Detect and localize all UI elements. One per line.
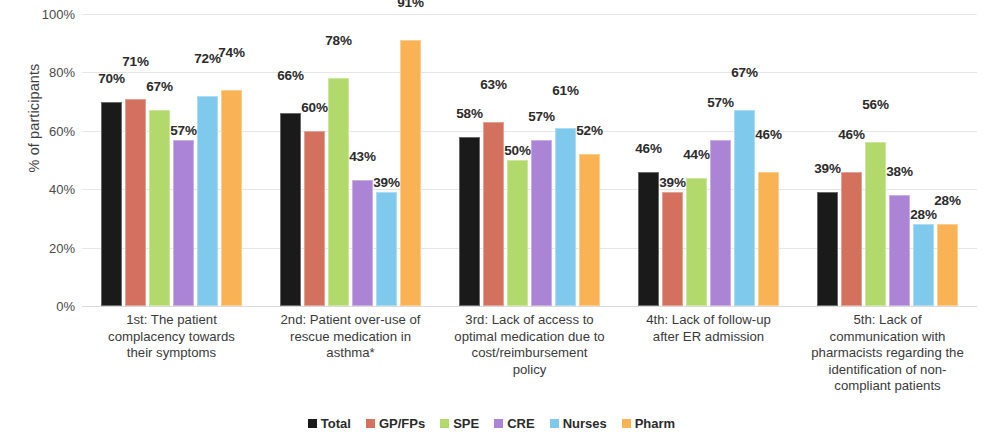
bar[interactable] [638,172,659,306]
bar[interactable] [197,96,218,306]
bar-column[interactable]: 67% [149,14,170,306]
bar-column[interactable]: 39% [662,14,683,306]
bar[interactable] [507,160,528,306]
x-axis-label-line: compliant patients [802,378,973,395]
bar-column[interactable]: 39% [817,14,838,306]
legend-item[interactable]: GP/FPs [366,416,425,431]
bar-value-label: 78% [325,33,351,48]
bar-column[interactable]: 38% [889,14,910,306]
bar-column[interactable]: 57% [531,14,552,306]
bar[interactable] [937,224,958,306]
legend-item[interactable]: SPE [440,416,479,431]
bar[interactable] [376,192,397,306]
bar-column[interactable]: 57% [710,14,731,306]
x-axis-label: 3rd: Lack of access tooptimal medication… [440,312,619,395]
x-axis-label-line: policy [444,362,615,379]
bar[interactable] [555,128,576,306]
x-axis-label-line: rescue medication in [265,329,436,346]
bar-value-label: 52% [576,123,602,138]
bar[interactable] [758,172,779,306]
bar[interactable] [662,192,683,306]
bar[interactable] [483,122,504,306]
x-axis-label-line: identification of non- [802,362,973,379]
bar-column[interactable]: 50% [507,14,528,306]
y-axis-tick: 20% [49,240,75,255]
bar-column[interactable]: 70% [101,14,122,306]
y-axis-tick: 60% [49,123,75,138]
x-axis-label-line: their symptoms [86,345,257,362]
legend-item[interactable]: CRE [494,416,534,431]
bar[interactable] [173,140,194,306]
bar[interactable] [817,192,838,306]
bar-column[interactable]: 56% [865,14,886,306]
bar[interactable] [459,137,480,306]
bar[interactable] [913,224,934,306]
y-axis-tick: 80% [49,65,75,80]
bar-value-label: 56% [862,97,888,112]
legend-label: Total [321,416,351,431]
legend-item[interactable]: Pharm [622,416,675,431]
y-axis-tick: 40% [49,182,75,197]
bar-value-label: 72% [194,51,220,66]
bar-column[interactable]: 57% [173,14,194,306]
bar-group: 39%46%56%38%28%28% [798,14,977,306]
bar-column[interactable]: 63% [483,14,504,306]
bar[interactable] [125,99,146,306]
x-axis-label-line: 3rd: Lack of access to [444,312,615,329]
legend-item[interactable]: Nurses [550,416,607,431]
bar-value-label: 66% [277,68,303,83]
bar[interactable] [400,40,421,306]
bar-column[interactable]: 44% [686,14,707,306]
bar-value-label: 38% [886,164,912,179]
bar[interactable] [531,140,552,306]
bar-column[interactable]: 46% [638,14,659,306]
legend-item[interactable]: Total [308,416,351,431]
legend-swatch-icon [366,419,375,428]
bar[interactable] [841,172,862,306]
bar-column[interactable]: 58% [459,14,480,306]
bar-column[interactable]: 43% [352,14,373,306]
bar[interactable] [101,102,122,306]
bar-column[interactable]: 52% [579,14,600,306]
bar[interactable] [889,195,910,306]
bar[interactable] [352,180,373,306]
bar-column[interactable]: 61% [555,14,576,306]
bar-column[interactable]: 39% [376,14,397,306]
bar-column[interactable]: 78% [328,14,349,306]
x-axis-label-line: complacency towards [86,329,257,346]
bar[interactable] [304,131,325,306]
bar-column[interactable]: 46% [758,14,779,306]
bar[interactable] [686,178,707,306]
bar-column[interactable]: 28% [937,14,958,306]
bar-column[interactable]: 74% [221,14,242,306]
bar[interactable] [865,142,886,306]
gridline [82,306,977,307]
legend-swatch-icon [622,419,631,428]
bar-column[interactable]: 71% [125,14,146,306]
bar-group-bars: 39%46%56%38%28%28% [798,14,977,306]
bar-column[interactable]: 60% [304,14,325,306]
bar[interactable] [221,90,242,306]
bar-column[interactable]: 28% [913,14,934,306]
bar-column[interactable]: 91% [400,14,421,306]
bar[interactable] [328,78,349,306]
bar[interactable] [149,110,170,306]
bar[interactable] [579,154,600,306]
bar[interactable] [280,113,301,306]
bar-value-label: 43% [349,149,375,164]
bar-value-label: 57% [707,95,733,110]
y-axis-tick: 100% [42,7,75,22]
bar-group: 70%71%67%57%72%74% [82,14,261,306]
bar-column[interactable]: 66% [280,14,301,306]
x-axis-label-line: communication with [802,329,973,346]
bar-value-label: 57% [528,109,554,124]
bar-column[interactable]: 46% [841,14,862,306]
bar-value-label: 71% [122,54,148,69]
bar-column[interactable]: 67% [734,14,755,306]
bar[interactable] [710,140,731,306]
legend-label: Pharm [635,416,675,431]
x-axis-label-line: 1st: The patient [86,312,257,329]
bar-column[interactable]: 72% [197,14,218,306]
x-axis-label: 2nd: Patient over-use ofrescue medicatio… [261,312,440,395]
bar[interactable] [734,110,755,306]
